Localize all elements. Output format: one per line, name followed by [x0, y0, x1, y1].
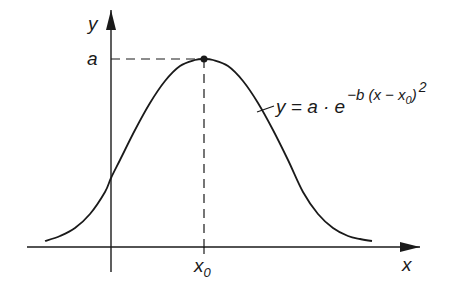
gaussian-curve-diagram: y x a x0 y = a · e−b (x − x0)2 [0, 0, 464, 296]
equation-exponent: −b (x − x [347, 86, 406, 103]
equation-exponent-power: 2 [418, 79, 427, 95]
equation-lhs: y = a · e [274, 96, 345, 117]
peak-height-label: a [87, 48, 98, 69]
bell-curve [45, 59, 372, 241]
peak-position-label: x0 [193, 255, 212, 280]
x-axis-label: x [401, 254, 413, 275]
y-axis-label: y [86, 13, 99, 34]
equation-label: y = a · e−b (x − x0)2 [274, 79, 427, 117]
peak-point [201, 56, 208, 63]
equation-exponent-close: ) [410, 86, 417, 103]
